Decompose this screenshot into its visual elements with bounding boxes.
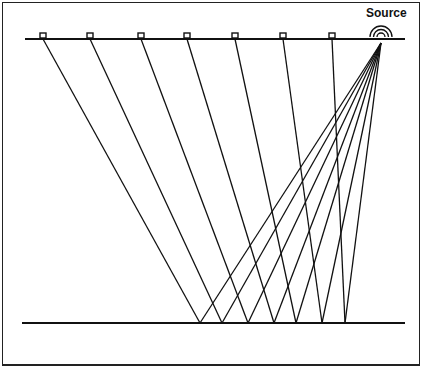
reflected-ray (187, 39, 274, 323)
geophone-icon (138, 33, 144, 38)
incident-ray (248, 43, 381, 323)
source-label: Source (366, 6, 407, 20)
seismic-reflection-diagram (0, 0, 424, 370)
reflected-ray (141, 39, 248, 323)
geophone-icon (280, 33, 286, 38)
geophone-icon (87, 33, 93, 38)
geophone-icon (40, 33, 46, 38)
source-wave-icon (377, 33, 385, 37)
incident-ray (222, 43, 381, 323)
reflected-ray (90, 39, 222, 323)
geophone-icon (329, 33, 335, 38)
reflected-ray (332, 39, 345, 323)
geophone-icon (184, 33, 190, 38)
incident-ray (322, 43, 381, 323)
reflected-ray (235, 39, 296, 323)
reflected-ray (43, 39, 200, 323)
geophone-icon (232, 33, 238, 38)
incident-ray (345, 43, 381, 323)
